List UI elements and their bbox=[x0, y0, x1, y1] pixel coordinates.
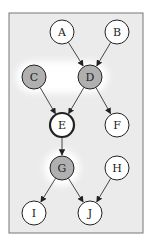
node-label: I bbox=[32, 207, 36, 220]
node-f: F bbox=[105, 113, 129, 137]
node-label: A bbox=[57, 26, 67, 39]
node-label: D bbox=[86, 71, 95, 84]
node-d: D bbox=[78, 65, 102, 89]
node-label: H bbox=[112, 162, 122, 175]
node-label: C bbox=[30, 71, 38, 84]
bayes-net-diagram: ABCDEFGHIJ bbox=[0, 0, 150, 246]
node-a: A bbox=[50, 20, 74, 44]
node-i: I bbox=[22, 201, 46, 225]
node-e: E bbox=[50, 113, 74, 137]
node-g: G bbox=[50, 156, 74, 180]
node-label: F bbox=[113, 119, 121, 132]
node-b: B bbox=[105, 20, 129, 44]
node-label: J bbox=[87, 207, 92, 220]
node-label: E bbox=[58, 119, 66, 132]
node-h: H bbox=[105, 156, 129, 180]
node-c: C bbox=[22, 65, 46, 89]
node-j: J bbox=[78, 201, 102, 225]
node-label: G bbox=[58, 162, 67, 175]
node-label: B bbox=[113, 26, 121, 39]
